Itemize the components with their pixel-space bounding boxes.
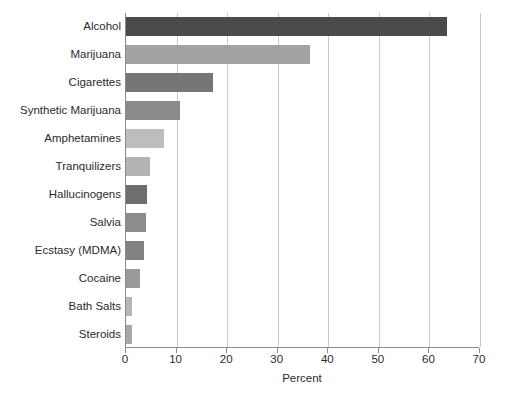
x-tick-label-20: 20	[206, 352, 246, 366]
plot-area	[125, 13, 479, 348]
y-label-ecstasy-mdma: Ecstasy (MDMA)	[0, 241, 121, 260]
x-tick-label-70: 70	[459, 352, 499, 366]
x-tick-label-30: 30	[257, 352, 297, 366]
y-label-bath-salts: Bath Salts	[0, 297, 121, 316]
x-tick-label-60: 60	[408, 352, 448, 366]
y-label-cocaine: Cocaine	[0, 269, 121, 288]
bar-fill	[126, 17, 447, 36]
bar-marijuana	[126, 45, 310, 64]
bar-salvia	[126, 213, 146, 232]
bar-synthetic-marijuana	[126, 101, 180, 120]
y-axis-category-labels: AlcoholMarijuanaCigarettesSynthetic Mari…	[0, 13, 121, 348]
bar-ecstasy-mdma	[126, 241, 144, 260]
bar-fill	[126, 157, 150, 176]
y-label-synthetic-marijuana: Synthetic Marijuana	[0, 101, 121, 120]
bar-cocaine	[126, 269, 140, 288]
bar-fill	[126, 185, 147, 204]
x-tick-label-40: 40	[307, 352, 347, 366]
bar-chart: AlcoholMarijuanaCigarettesSynthetic Mari…	[0, 0, 508, 408]
bar-fill	[126, 325, 132, 344]
y-label-steroids: Steroids	[0, 325, 121, 344]
bar-bath-salts	[126, 297, 132, 316]
bar-series	[126, 13, 479, 347]
gridline-70	[480, 13, 481, 347]
bar-amphetamines	[126, 129, 164, 148]
x-tick-label-50: 50	[358, 352, 398, 366]
bar-cigarettes	[126, 73, 213, 92]
bar-fill	[126, 241, 144, 260]
bar-alcohol	[126, 17, 447, 36]
y-label-hallucinogens: Hallucinogens	[0, 185, 121, 204]
bar-tranquilizers	[126, 157, 150, 176]
y-label-marijuana: Marijuana	[0, 45, 121, 64]
bar-hallucinogens	[126, 185, 147, 204]
y-label-cigarettes: Cigarettes	[0, 73, 121, 92]
bar-fill	[126, 101, 180, 120]
x-tick-label-0: 0	[105, 352, 145, 366]
bar-steroids	[126, 325, 132, 344]
bar-fill	[126, 45, 310, 64]
bar-fill	[126, 129, 164, 148]
y-label-alcohol: Alcohol	[0, 17, 121, 36]
bar-fill	[126, 73, 213, 92]
y-label-salvia: Salvia	[0, 213, 121, 232]
bar-fill	[126, 213, 146, 232]
x-axis-title: Percent	[125, 372, 479, 384]
bar-fill	[126, 297, 132, 316]
y-label-amphetamines: Amphetamines	[0, 129, 121, 148]
x-tick-label-10: 10	[156, 352, 196, 366]
bar-fill	[126, 269, 140, 288]
y-label-tranquilizers: Tranquilizers	[0, 157, 121, 176]
